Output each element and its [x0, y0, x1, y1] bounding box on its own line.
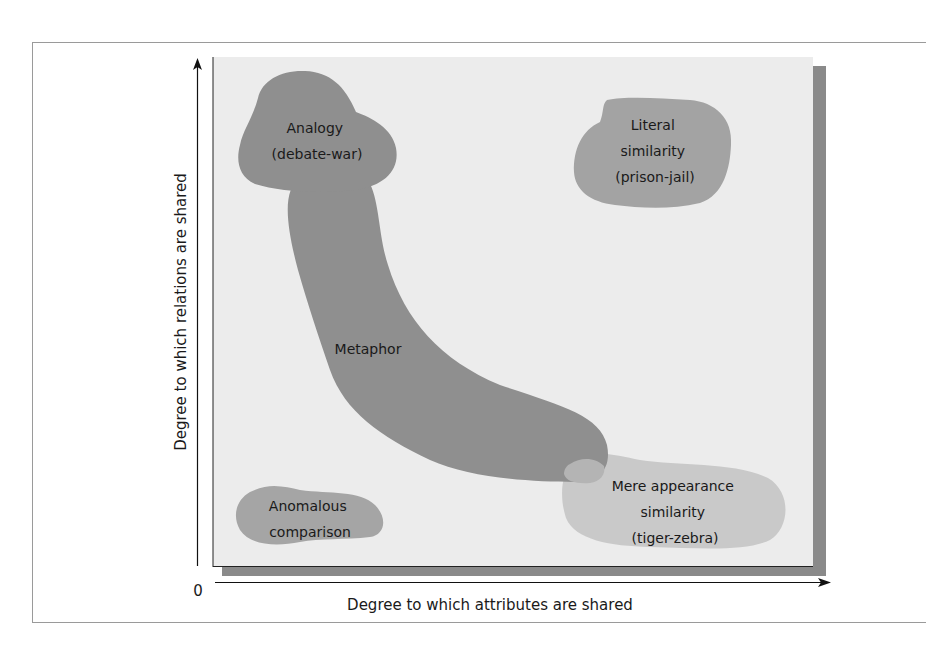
origin-label: 0	[193, 582, 203, 600]
metaphor-label: Metaphor	[335, 341, 402, 357]
x-axis-label: Degree to which attributes are shared	[347, 596, 633, 614]
y-axis-label: Degree to which relations are shared	[172, 173, 190, 451]
similarity-space-diagram: Analogy (debate-war) Metaphor Literal si…	[0, 0, 926, 651]
